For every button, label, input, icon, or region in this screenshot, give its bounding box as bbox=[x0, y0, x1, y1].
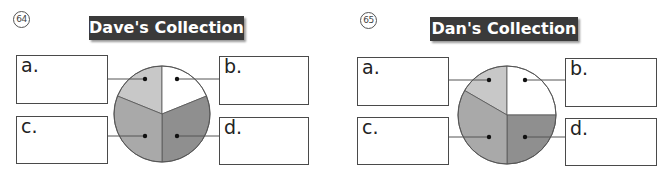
answer-box-b[interactable]: b. bbox=[565, 58, 657, 107]
box-label-c: c. bbox=[362, 116, 379, 138]
box-label-d: d. bbox=[570, 117, 588, 139]
slice-d bbox=[507, 115, 556, 164]
answer-box-c[interactable]: c. bbox=[357, 117, 449, 165]
box-label-b: b. bbox=[570, 57, 588, 79]
answer-box-d[interactable]: d. bbox=[565, 118, 657, 166]
slice-b bbox=[507, 66, 556, 115]
answer-box-a[interactable]: a. bbox=[357, 57, 449, 106]
panel-dan: 65 Dan's Collection a. c. b. d. bbox=[0, 0, 665, 179]
box-label-a: a. bbox=[362, 56, 380, 78]
